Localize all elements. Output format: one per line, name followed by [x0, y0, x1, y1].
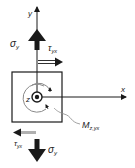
sigma-y-bottom-label: σy	[48, 144, 58, 156]
sigma-y-top-label: σy	[10, 38, 20, 50]
z-axis-label: z	[25, 95, 30, 104]
tau-yx-bottom-label: τyx	[14, 139, 23, 149]
tau-yx-top-arrow-icon	[38, 58, 63, 67]
tau-yx-bottom-arrow-icon	[13, 129, 36, 137]
tau-yx-top-label: τyx	[48, 43, 57, 54]
sigma-y-bottom-arrow-icon	[28, 139, 46, 162]
z-axis-icon	[32, 92, 42, 102]
moment-label: Mz,yx	[82, 120, 100, 131]
stress-element-diagram: y x z σy τyx Mz,yx τyx σy	[0, 0, 135, 168]
x-axis-label: x	[120, 85, 126, 94]
sigma-y-top-arrow-icon	[28, 29, 46, 50]
y-axis-label: y	[27, 9, 33, 18]
